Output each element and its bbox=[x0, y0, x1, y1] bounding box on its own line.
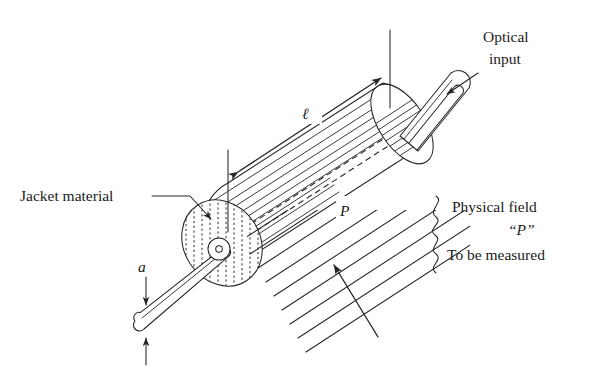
curly-brace-icon bbox=[432, 196, 438, 273]
physical-field-symbol: “P” bbox=[508, 221, 535, 238]
length-label: ℓ bbox=[302, 105, 309, 122]
sensor-diagram: ℓ a P bbox=[0, 0, 598, 378]
field-arrow-P: P bbox=[334, 196, 378, 337]
physical-field-line1: Physical field bbox=[452, 198, 537, 215]
fiber-cross-section bbox=[208, 238, 230, 260]
jacket-material-label: Jacket material bbox=[20, 187, 113, 204]
P-arrow bbox=[334, 265, 378, 337]
P-label: P bbox=[339, 202, 350, 219]
optical-input-label-line2: input bbox=[489, 50, 522, 67]
diameter-label: a bbox=[138, 258, 146, 275]
jacket-material-annotation: Jacket material bbox=[20, 187, 211, 219]
figure-root: ℓ a P bbox=[0, 0, 598, 378]
physical-field-line3: To be measured bbox=[447, 246, 545, 263]
optical-input-label-line1: Optical bbox=[483, 28, 529, 45]
physical-field-annotation: Physical field “P” To be measured bbox=[432, 196, 545, 273]
